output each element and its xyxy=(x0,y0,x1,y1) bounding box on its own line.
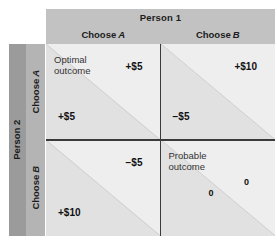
column-option-b-prefix: Choose xyxy=(196,30,231,40)
cell-b-a-diagonal-icon xyxy=(46,140,161,236)
matrix-body: Optimal outcome +$5 +$5 +$10 −$5 −$5 +$1… xyxy=(46,44,275,236)
cell-a-a-annotation: Optimal outcome xyxy=(54,54,90,76)
column-option-choose-a[interactable]: Choose A xyxy=(46,26,161,44)
row-option-b-choice: B xyxy=(30,166,41,175)
column-header-person1: Person 1 xyxy=(46,9,275,26)
matrix-cell-b-b[interactable]: Probable outcome 0 0 xyxy=(161,140,276,236)
cell-a-a-person1-payoff: +$5 xyxy=(126,62,143,72)
payoff-matrix-figure: Person 1 Choose A Choose B Person 2 Choo… xyxy=(0,0,277,241)
row-option-a-choice: A xyxy=(30,70,41,79)
cell-b-a-person2-payoff: +$10 xyxy=(58,208,81,218)
matrix-horizontal-divider xyxy=(46,139,275,140)
cell-b-b-person2-payoff: 0 xyxy=(209,189,214,198)
row-option-b-text: ChooseB xyxy=(31,166,41,210)
cell-b-b-annotation: Probable outcome xyxy=(169,150,207,172)
column-header-label: Person 1 xyxy=(140,13,182,23)
row-options-column: ChooseA ChooseB xyxy=(26,44,45,236)
column-options-row: Choose A Choose B xyxy=(46,26,275,44)
column-option-choose-b[interactable]: Choose B xyxy=(161,26,276,44)
matrix-cell-a-a[interactable]: Optimal outcome +$5 +$5 xyxy=(46,44,161,140)
matrix-cell-b-a[interactable]: −$5 +$10 xyxy=(46,140,161,236)
column-option-a-prefix: Choose xyxy=(81,30,116,40)
cell-a-b-person1-payoff: +$10 xyxy=(234,62,257,72)
row-option-b-prefix: Choose xyxy=(30,175,41,210)
row-option-choose-a[interactable]: ChooseA xyxy=(26,44,45,140)
row-option-choose-b[interactable]: ChooseB xyxy=(26,140,45,236)
row-header-person2: Person 2 xyxy=(9,44,26,236)
cell-b-a-person1-payoff: −$5 xyxy=(126,158,143,168)
row-option-a-prefix: Choose xyxy=(30,79,41,114)
cell-a-a-person2-payoff: +$5 xyxy=(58,112,75,122)
row-header-label: Person 2 xyxy=(13,120,23,160)
column-option-a-choice: A xyxy=(116,30,125,40)
row-option-a-text: ChooseA xyxy=(31,70,41,114)
cell-a-b-person2-payoff: −$5 xyxy=(173,112,190,122)
column-option-b-choice: B xyxy=(231,30,240,40)
cell-b-b-person1-payoff: 0 xyxy=(244,178,249,187)
matrix-cell-a-b[interactable]: +$10 −$5 xyxy=(161,44,276,140)
cell-a-b-diagonal-icon xyxy=(161,44,276,140)
